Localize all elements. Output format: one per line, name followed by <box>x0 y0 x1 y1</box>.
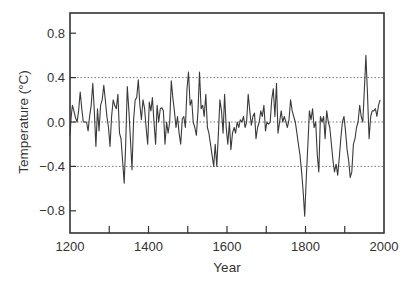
y-tick-label: 0.4 <box>47 70 65 85</box>
temperature-series-line <box>70 55 380 216</box>
x-tick-label: 1600 <box>213 239 242 254</box>
x-tick-label: 1400 <box>134 239 163 254</box>
y-axis-label: Temperature (°C) <box>16 70 31 174</box>
y-tick-label: −0.8 <box>39 203 65 218</box>
y-tick-label: −0.4 <box>39 159 65 174</box>
x-tick-label: 2000 <box>370 239 399 254</box>
x-axis-label: Year <box>213 260 241 275</box>
x-tick-label: 1200 <box>56 239 85 254</box>
dotted-reference-lines <box>70 78 384 167</box>
x-axis-ticks: 12001400160018002000 <box>56 226 399 254</box>
temperature-line-chart: 0.80.40.0−0.4−0.8 12001400160018002000 Y… <box>0 0 420 282</box>
plot-frame <box>70 13 384 233</box>
y-tick-label: 0.0 <box>47 115 65 130</box>
y-tick-label: 0.8 <box>47 26 65 41</box>
x-tick-label: 1800 <box>291 239 320 254</box>
